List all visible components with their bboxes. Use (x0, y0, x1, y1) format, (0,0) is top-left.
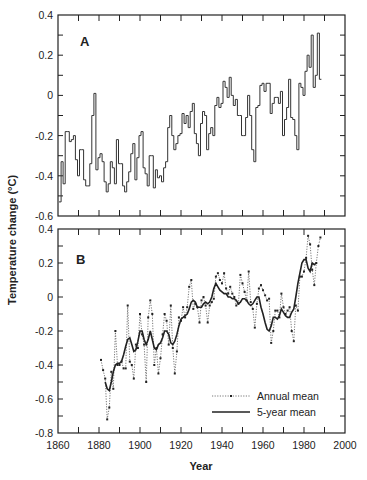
annual-data-point (172, 347, 174, 349)
annual-data-point (235, 305, 237, 307)
annual-data-point (160, 357, 162, 359)
annual-data-point (266, 299, 268, 301)
annual-data-point (280, 293, 282, 295)
annual-data-point (176, 350, 178, 352)
legend-five-year-label: 5-year mean (257, 406, 316, 418)
x-tick-label: 1940 (210, 439, 234, 451)
annual-data-point (223, 272, 225, 274)
x-tick-labels: 18601880190019201940196019802000 (46, 439, 357, 451)
annual-data-point (244, 291, 246, 293)
annual-data-point (104, 378, 106, 380)
x-tick-label: 1860 (46, 439, 70, 451)
annual-data-point (303, 271, 305, 273)
annual-data-point (313, 284, 315, 286)
annual-data-point (145, 381, 147, 383)
legend-annual-label: Annual mean (257, 390, 319, 402)
annual-data-point (242, 282, 244, 284)
y-tick-label: 0.4 (38, 9, 53, 21)
panel-b-label: B (76, 252, 85, 267)
annual-data-point (305, 257, 307, 259)
annual-data-point (289, 306, 291, 308)
annual-data-point (110, 371, 112, 373)
panel-b: 0.40.20-0.2-0.4-0.6-0.8 1860188019001920… (35, 223, 357, 451)
annual-data-point (129, 361, 131, 363)
panel-a: 0.40.20-0.2-0.4-0.6 A (35, 9, 345, 222)
annual-data-point (301, 276, 303, 278)
annual-data-point (209, 305, 211, 307)
annual-data-point (254, 327, 256, 329)
y-tick-label: 0 (47, 89, 53, 101)
annual-data-point (133, 378, 135, 380)
annual-data-point (178, 316, 180, 318)
annual-data-point (248, 271, 250, 273)
annual-data-point (276, 310, 278, 312)
annual-data-point (192, 308, 194, 310)
annual-data-point (225, 288, 227, 290)
annual-data-point (153, 364, 155, 366)
annual-data-point (139, 313, 141, 315)
y-tick-label: 0.4 (38, 223, 53, 235)
annual-data-point (293, 340, 295, 342)
annual-data-point (291, 330, 293, 332)
x-tick-label: 1900 (128, 439, 152, 451)
annual-data-point (199, 322, 201, 324)
annual-data-point (258, 288, 260, 290)
annual-data-point (131, 364, 133, 366)
annual-data-point (123, 367, 125, 369)
y-tick-label: -0.2 (35, 130, 53, 142)
annual-data-point (262, 289, 264, 291)
y-tick-label: -0.6 (35, 393, 53, 405)
temperature-change-figure: 0.40.20-0.2-0.4-0.6 A 0.40.20-0.2-0.4-0.… (0, 0, 367, 480)
five-year-mean-line (105, 260, 316, 391)
annual-data-point (319, 237, 321, 239)
annual-data-point (272, 330, 274, 332)
annual-data-point (119, 364, 121, 366)
annual-data-point (231, 293, 233, 295)
annual-data-point (215, 276, 217, 278)
x-tick-label: 2000 (333, 439, 357, 451)
annual-data-point (207, 322, 209, 324)
legend: Annual mean 5-year mean (212, 390, 319, 418)
y-tick-label: -0.6 (35, 210, 53, 222)
annual-data-point (239, 274, 241, 276)
y-tick-label: -0.4 (35, 170, 53, 182)
panel-a-label: A (80, 34, 90, 49)
panel-b-ticks (58, 229, 345, 433)
annual-data-point (112, 388, 114, 390)
annual-data-point (250, 301, 252, 303)
panel-a-frame (58, 15, 345, 216)
annual-data-point (221, 282, 223, 284)
annual-data-point (227, 293, 229, 295)
annual-data-point (168, 344, 170, 346)
x-tick-label: 1880 (87, 439, 111, 451)
panel-a-ticks (58, 15, 345, 216)
annual-data-point (143, 344, 145, 346)
annual-data-point (201, 299, 203, 301)
annual-data-point (307, 235, 309, 237)
annual-data-point (108, 407, 110, 409)
annual-data-point (164, 313, 166, 315)
legend-annual-marker (230, 395, 232, 397)
panel-b-frame (58, 229, 345, 433)
annual-data-point (274, 310, 276, 312)
annual-data-point (188, 286, 190, 288)
y-tick-label: 0.2 (38, 257, 53, 269)
annual-data-point (256, 303, 258, 305)
annual-data-point (268, 298, 270, 300)
panel-a-annual-step-line (59, 33, 321, 202)
annual-data-point (260, 284, 262, 286)
annual-data-point (283, 306, 285, 308)
annual-data-point (190, 279, 192, 281)
annual-data-point (297, 310, 299, 312)
y-axis-title: Temperature change (°C) (6, 175, 18, 305)
annual-data-point (125, 367, 127, 369)
y-tick-label: 0.2 (38, 49, 53, 61)
annual-data-point (213, 298, 215, 300)
annual-data-point (151, 313, 153, 315)
annual-data-point (182, 306, 184, 308)
annual-data-point (127, 305, 129, 307)
annual-data-point (102, 369, 104, 371)
x-tick-label: 1960 (251, 439, 275, 451)
y-tick-label: 0 (47, 291, 53, 303)
annual-data-point (100, 359, 102, 361)
